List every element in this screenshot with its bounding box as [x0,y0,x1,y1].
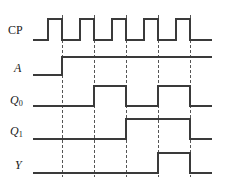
waveform-canvas [0,0,229,188]
signal-label-text: Q [10,93,19,107]
signal-label-q1: Q1 [10,125,23,137]
waveform-y [33,153,212,173]
signal-waveforms [33,19,212,173]
signal-label-subscript: 0 [19,99,23,108]
signal-label-text: Q [10,124,19,138]
signal-label-a: A [14,62,21,74]
signal-label-text: Y [15,158,22,172]
signal-label-text: CP [8,23,23,37]
signal-label-y: Y [15,159,22,171]
waveform-q1 [33,119,212,139]
waveform-cp [33,19,212,40]
signal-label-cp: CP [8,24,23,36]
signal-label-subscript: 1 [19,130,23,139]
waveform-a [33,57,212,75]
signal-label-text: A [14,61,21,75]
timing-diagram-figure: CPAQ0Q1Y [0,0,229,188]
waveform-q0 [33,86,212,106]
signal-label-q0: Q0 [10,94,23,106]
